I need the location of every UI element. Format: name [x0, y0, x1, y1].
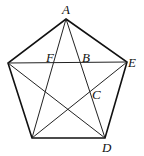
- vertex-label-C: C: [92, 87, 101, 102]
- pentagon-outline: [8, 19, 127, 138]
- pentagon-figure: AFBECD: [0, 0, 144, 156]
- vertex-label-E: E: [127, 55, 136, 70]
- diagonal-A-D: [66, 19, 105, 138]
- diagonal-left-E: [8, 62, 127, 63]
- vertex-label-F: F: [45, 50, 55, 65]
- pentagon-diagram: AFBECD: [0, 0, 144, 156]
- vertex-label-A: A: [61, 2, 70, 17]
- vertex-label-B: B: [82, 50, 90, 65]
- diagonal-left-D: [8, 63, 105, 138]
- vertex-label-D: D: [101, 140, 112, 155]
- diagonal-A-bottomleft: [32, 19, 66, 138]
- diagonal-bottomleft-E: [32, 62, 127, 138]
